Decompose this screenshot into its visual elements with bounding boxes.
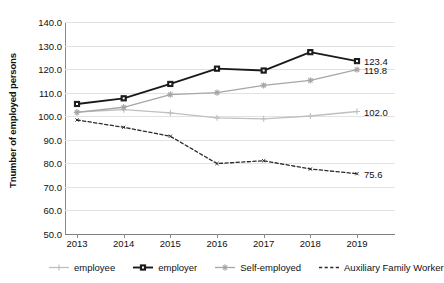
dash-marker bbox=[318, 262, 340, 273]
data-point-marker-inner bbox=[76, 103, 78, 105]
data-point-marker bbox=[260, 82, 266, 88]
x-axis-tick-label: 2017 bbox=[244, 238, 284, 249]
y-axis-tick-label: 70.0 bbox=[24, 181, 62, 192]
series-employee bbox=[74, 107, 360, 122]
series-auxiliary-family-worker bbox=[75, 118, 358, 175]
y-axis-title-text: Tnumber of employed persons bbox=[7, 53, 18, 188]
data-point-marker bbox=[354, 109, 360, 115]
series-line bbox=[77, 52, 357, 104]
data-point-marker-inner bbox=[169, 83, 171, 85]
x-axis-tick-label: 2018 bbox=[290, 238, 330, 249]
data-point-marker bbox=[167, 110, 173, 116]
data-point-marker bbox=[214, 89, 220, 95]
data-point-marker bbox=[74, 109, 80, 115]
series-layer bbox=[65, 22, 395, 234]
y-axis-title: Tnumber of employed persons bbox=[0, 0, 24, 240]
data-point-marker-inner bbox=[142, 266, 144, 268]
legend-label: Self-employed bbox=[240, 262, 301, 273]
series-self-employed bbox=[74, 66, 360, 115]
data-point-marker bbox=[261, 116, 267, 122]
legend-label: employee bbox=[74, 262, 115, 273]
data-point-marker bbox=[307, 113, 313, 119]
y-axis-tick-label: 110.0 bbox=[24, 87, 62, 98]
data-label-self-employed: 119.8 bbox=[364, 64, 387, 75]
legend-label: Auxiliary Family Worker bbox=[344, 262, 444, 273]
x-axis-tick-label: 2014 bbox=[104, 238, 144, 249]
plus-marker bbox=[48, 262, 70, 273]
data-point-marker bbox=[222, 264, 228, 270]
square-marker bbox=[132, 262, 154, 273]
data-point-marker-inner bbox=[356, 60, 358, 62]
x-axis-tick-label: 2013 bbox=[57, 238, 97, 249]
y-axis-tick-label: 130.0 bbox=[24, 40, 62, 51]
data-label-auxiliary-family-worker: 75.6 bbox=[364, 168, 383, 179]
y-axis-tick-label: 140.0 bbox=[24, 17, 62, 28]
y-axis-tick-label: 100.0 bbox=[24, 111, 62, 122]
data-point-marker-inner bbox=[263, 70, 265, 72]
x-axis-tick-label: 2016 bbox=[197, 238, 237, 249]
data-point-marker bbox=[307, 77, 313, 83]
x-axis-tick-label: 2019 bbox=[337, 238, 377, 249]
chart-legend: employeeemployerSelf-employedAuxiliary F… bbox=[48, 258, 408, 276]
data-point-marker bbox=[167, 91, 173, 97]
x-axis-tick-labels: 2013201420152016201720182019 bbox=[65, 238, 395, 252]
series-employer bbox=[74, 50, 359, 107]
y-axis-tick-label: 120.0 bbox=[24, 64, 62, 75]
y-axis-tick-label: 60.0 bbox=[24, 205, 62, 216]
star-marker bbox=[214, 262, 236, 273]
y-axis-tick-label: 80.0 bbox=[24, 158, 62, 169]
data-point-marker bbox=[354, 66, 360, 72]
gridline bbox=[65, 234, 395, 235]
y-axis-tick-labels: 140.0130.0120.0110.0100.090.080.070.060.… bbox=[22, 0, 62, 283]
legend-item-self-employed[interactable]: Self-employed bbox=[214, 262, 301, 273]
data-point-marker-inner bbox=[216, 68, 218, 70]
x-axis-tick-label: 2015 bbox=[150, 238, 190, 249]
data-label-employee: 102.0 bbox=[364, 106, 388, 117]
data-point-marker bbox=[56, 264, 62, 270]
data-point-marker-inner bbox=[123, 97, 125, 99]
legend-label: employer bbox=[158, 262, 197, 273]
legend-item-employee[interactable]: employee bbox=[48, 262, 115, 273]
legend-item-auxiliary-family-worker[interactable]: Auxiliary Family Worker bbox=[318, 262, 444, 273]
series-line bbox=[77, 120, 357, 174]
data-point-marker-inner bbox=[309, 51, 311, 53]
y-axis-tick-label: 90.0 bbox=[24, 134, 62, 145]
data-point-marker bbox=[214, 115, 220, 121]
plot-area bbox=[65, 22, 395, 234]
legend-item-employer[interactable]: employer bbox=[132, 262, 197, 273]
